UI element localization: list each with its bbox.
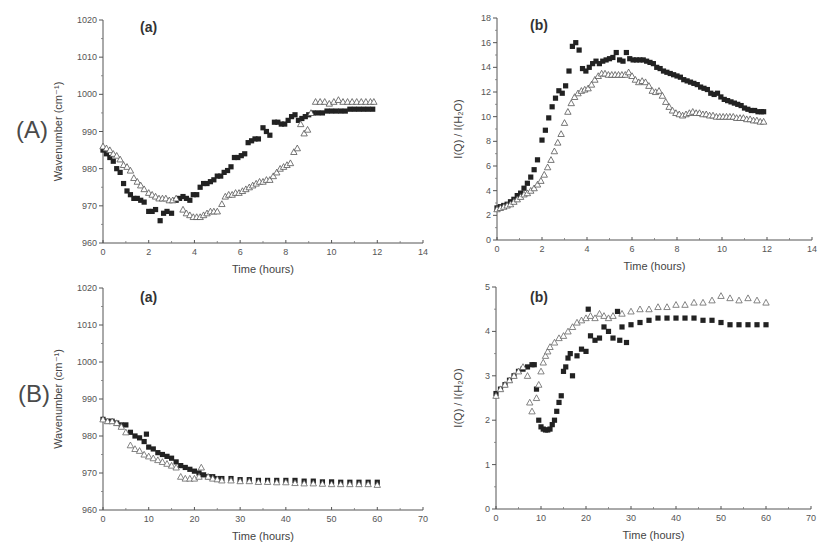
y-tick-label: 960 (82, 505, 97, 515)
x-tick-label: 10 (717, 244, 727, 254)
y-tick-label: 3 (485, 371, 490, 381)
y-tick-label: 1000 (77, 357, 97, 367)
x-tick-label: 0 (494, 244, 499, 254)
y-tick-label: 970 (82, 201, 97, 211)
panel-label: (b) (530, 17, 548, 33)
x-tick-label: 10 (144, 514, 154, 524)
x-tick-label: 40 (671, 513, 681, 523)
x-tick-label: 12 (762, 244, 772, 254)
x-tick-label: 14 (418, 247, 428, 257)
x-tick-label: 30 (235, 514, 245, 524)
y-tick-label: 12 (481, 87, 491, 97)
x-tick-label: 8 (674, 244, 679, 254)
y-tick-label: 980 (82, 164, 97, 174)
y-tick-label: 2 (486, 210, 491, 220)
x-axis-title: Time (hours) (623, 529, 685, 541)
y-tick-label: 1020 (77, 15, 97, 25)
x-tick-label: 2 (146, 247, 151, 257)
y-tick-label: 8 (486, 136, 491, 146)
y-tick-label: 990 (82, 394, 97, 404)
x-tick-label: 14 (807, 244, 817, 254)
x-tick-label: 10 (536, 513, 546, 523)
chart-B-a: 010203040506070960970980990100010101020T… (52, 283, 428, 542)
x-tick-label: 0 (100, 247, 105, 257)
x-tick-label: 50 (716, 513, 726, 523)
x-tick-label: 20 (189, 514, 199, 524)
x-axis-title: Time (hours) (232, 530, 294, 542)
y-tick-label: 2 (485, 415, 490, 425)
x-tick-label: 6 (238, 247, 243, 257)
x-tick-label: 0 (100, 514, 105, 524)
y-tick-label: 4 (486, 186, 491, 196)
panel-label: (a) (140, 19, 157, 35)
y-tick-label: 970 (82, 468, 97, 478)
x-axis-title: Time (hours) (232, 263, 294, 275)
y-tick-label: 5 (485, 282, 490, 292)
y-tick-label: 10 (481, 112, 491, 122)
x-tick-label: 4 (584, 244, 589, 254)
y-tick-label: 1 (485, 460, 490, 470)
x-tick-label: 20 (581, 513, 591, 523)
x-tick-label: 2 (539, 244, 544, 254)
series-triangle-open (494, 69, 767, 212)
panel-label: (b) (530, 289, 548, 305)
y-tick-label: 1010 (77, 320, 97, 330)
series-triangle-open (100, 416, 381, 487)
y-axis-title: I(Q) / I(H₂O) (452, 368, 464, 427)
y-tick-label: 16 (481, 38, 491, 48)
chart-A-b: 02468101214024681012141618Time (hours)I(… (452, 13, 817, 272)
y-tick-label: 990 (82, 127, 97, 137)
y-tick-label: 18 (481, 13, 491, 23)
chart-A-a: 02468101214960970980990100010101020Time … (52, 15, 428, 275)
y-tick-label: 1010 (77, 52, 97, 62)
x-axis-title: Time (hours) (624, 260, 686, 272)
x-tick-label: 70 (806, 513, 816, 523)
x-tick-label: 60 (372, 514, 382, 524)
y-tick-label: 4 (485, 326, 490, 336)
y-tick-label: 1020 (77, 283, 97, 293)
x-tick-label: 4 (192, 247, 197, 257)
x-tick-label: 40 (281, 514, 291, 524)
panel-label: (a) (140, 289, 157, 305)
x-tick-label: 70 (418, 514, 428, 524)
x-tick-label: 8 (283, 247, 288, 257)
x-tick-label: 12 (372, 247, 382, 257)
y-tick-label: 6 (486, 161, 491, 171)
x-tick-label: 10 (327, 247, 337, 257)
x-tick-label: 0 (493, 513, 498, 523)
x-tick-label: 30 (626, 513, 636, 523)
y-tick-label: 0 (486, 235, 491, 245)
series-square-filled (100, 417, 379, 485)
figure-canvas: 02468101214960970980990100010101020Time … (0, 0, 826, 553)
y-tick-label: 1000 (77, 89, 97, 99)
y-tick-label: 14 (481, 62, 491, 72)
chart-B-b: 010203040506070012345Time (hours)I(Q) / … (452, 282, 816, 541)
y-tick-label: 980 (82, 431, 97, 441)
series-triangle-open (493, 293, 769, 414)
y-axis-title: Wavenumber (cm⁻¹) (52, 82, 64, 182)
y-tick-label: 0 (485, 504, 490, 514)
x-tick-label: 60 (761, 513, 771, 523)
y-axis-title: Wavenumber (cm⁻¹) (52, 349, 64, 449)
series-square-filled (100, 107, 375, 224)
y-tick-label: 960 (82, 238, 97, 248)
x-tick-label: 50 (327, 514, 337, 524)
y-axis-title: I(Q) / I(H₂O) (452, 99, 464, 158)
x-tick-label: 6 (629, 244, 634, 254)
